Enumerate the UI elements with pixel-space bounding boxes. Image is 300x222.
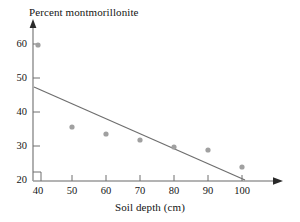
data-point — [239, 164, 244, 169]
data-point — [205, 147, 210, 152]
data-point — [171, 144, 176, 149]
data-points — [35, 42, 244, 169]
axis-break-notch — [33, 172, 41, 181]
data-point — [103, 131, 108, 136]
data-point — [69, 124, 74, 129]
plot-area — [0, 0, 300, 222]
data-point — [137, 137, 142, 142]
x-axis-arrow-icon — [273, 177, 283, 185]
y-tick-marks — [33, 44, 40, 146]
x-tick-marks — [72, 175, 242, 181]
scatter-chart: Percent montmorillonite Soil depth (cm) … — [0, 0, 300, 222]
regression-line — [34, 87, 245, 180]
y-axis-arrow-icon — [30, 19, 37, 28]
data-point — [35, 42, 40, 47]
